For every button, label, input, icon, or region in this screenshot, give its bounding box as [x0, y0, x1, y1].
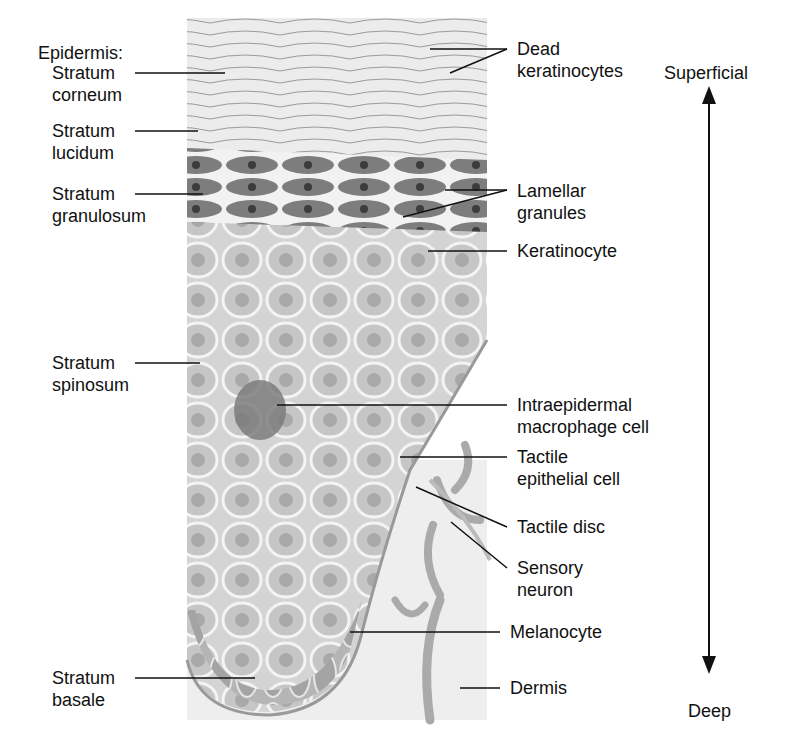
label-epidermis: Epidermis:: [38, 42, 123, 64]
label-melanocyte: Melanocyte: [510, 621, 602, 643]
label-intraepidermal-macrophage: Intraepidermalmacrophage cell: [517, 394, 649, 438]
label-tactile-disc: Tactile disc: [517, 516, 605, 538]
stratum-granulosum-region: [187, 148, 487, 235]
label-dead-keratinocytes: Deadkeratinocytes: [517, 38, 623, 82]
label-deep: Deep: [688, 700, 731, 722]
label-stratum-spinosum: Stratumspinosum: [52, 352, 129, 396]
macrophage-cell: [234, 380, 286, 440]
label-sensory-neuron: Sensoryneuron: [517, 557, 583, 601]
label-tactile-epithelial-cell: Tactileepithelial cell: [517, 446, 620, 490]
label-stratum-corneum: Stratumcorneum: [52, 62, 122, 106]
label-superficial: Superficial: [664, 62, 748, 84]
label-lamellar-granules: Lamellargranules: [517, 180, 586, 224]
label-stratum-lucidum: Stratumlucidum: [52, 120, 115, 164]
label-stratum-basale: Stratumbasale: [52, 667, 115, 711]
label-dermis: Dermis: [510, 677, 567, 699]
label-keratinocyte: Keratinocyte: [517, 240, 617, 262]
label-stratum-granulosum: Stratumgranulosum: [52, 183, 146, 227]
depth-axis-arrow: [702, 86, 716, 674]
